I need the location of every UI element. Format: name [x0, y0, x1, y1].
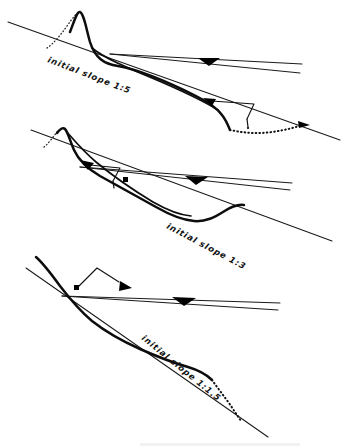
bottom-caption-remnant — [140, 443, 300, 446]
panel-1-initial-slope-line — [8, 22, 340, 140]
figure-root: initial slope 1:5 initial slope 1:3 — [0, 0, 351, 447]
slope-erosion-diagram: initial slope 1:5 initial slope 1:3 — [0, 0, 351, 447]
panel-1-slope-label: initial slope 1:5 — [46, 55, 132, 96]
panel-1-group: initial slope 1:5 — [8, 12, 340, 140]
panel-2-group: initial slope 1:3 — [31, 128, 332, 271]
panel-3-group: initial slope 1:1.5 — [26, 257, 280, 437]
panel-2-water-tick-marker-icon — [123, 177, 128, 182]
panel-2-peak-dotted-flank — [44, 128, 65, 147]
panel-3-slope-label: initial slope 1:1.5 — [140, 333, 223, 403]
panel-3-eroded-profile-curve — [36, 257, 212, 380]
panel-2-initial-slope-line — [31, 130, 332, 241]
panel-2-slope-label: initial slope 1:3 — [165, 221, 248, 271]
panel-3-flow-arrow-leader — [74, 268, 132, 291]
panel-3-water-surface-line-lower — [62, 296, 278, 310]
panel-3-water-surface-line — [62, 296, 280, 303]
panel-1-scour-dotted-curve — [230, 124, 305, 133]
